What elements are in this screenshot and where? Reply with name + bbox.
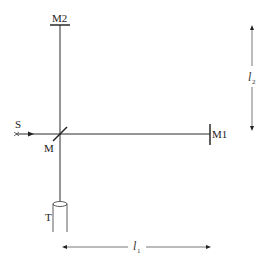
label-m2: M2 — [52, 12, 67, 24]
arrow-right-icon — [206, 245, 211, 249]
source-arrow-icon — [28, 132, 34, 137]
interferometer-diagram: M2 S M M1 T l 1 l 2 — [0, 0, 267, 263]
arrow-down-icon — [250, 126, 254, 131]
label-source: S — [15, 118, 21, 130]
label-l1-sub: 1 — [137, 247, 141, 255]
arrow-left-icon — [62, 245, 67, 249]
label-beam-splitter: M — [44, 142, 54, 154]
telescope-top — [53, 202, 67, 207]
arrow-up-icon — [250, 25, 254, 30]
label-telescope: T — [45, 211, 52, 223]
label-m1: M1 — [212, 128, 227, 140]
label-l2-sub: 2 — [252, 78, 256, 86]
